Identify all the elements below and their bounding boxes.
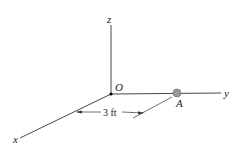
y-axis-label: y [223, 87, 229, 99]
y-axis [111, 93, 221, 94]
extension-line [133, 97, 172, 118]
dimension-label: 3 ft [103, 107, 117, 118]
point-a-label: A [175, 97, 183, 109]
origin-label: O [115, 81, 123, 93]
z-axis-label: z [106, 13, 112, 25]
point-a-ball [173, 89, 181, 97]
x-axis [20, 94, 111, 138]
coordinate-diagram: z y x O A 3 ft [0, 0, 241, 152]
origin-point [109, 92, 112, 95]
x-axis-label: x [12, 133, 18, 145]
